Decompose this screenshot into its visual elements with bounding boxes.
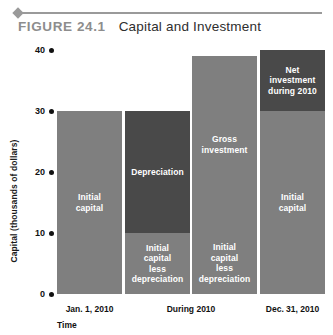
y-tick-dot-icon: [49, 109, 54, 114]
segment-label: Initialcapital: [277, 192, 309, 213]
bar-3-segment-2: Grossinvestment: [192, 56, 257, 233]
x-tick-label-3: Dec. 31, 2010: [260, 304, 325, 314]
bar-4[interactable]: InitialcapitalNetinvestmentduring 2010: [260, 50, 325, 294]
y-tick-label: 0: [40, 288, 45, 300]
y-tick-0: 0: [0, 288, 57, 300]
x-tick-label-2: During 2010: [125, 304, 257, 314]
y-tick-40: 40: [0, 44, 57, 56]
bar-3-segment-1: Initialcapitallessdepreciation: [192, 233, 257, 294]
x-axis-title: Time: [57, 320, 77, 330]
bar-1-segment-1: Initialcapital: [57, 111, 122, 294]
segment-label: Depreciation: [129, 167, 186, 178]
chart-plot-area: Capital (thousands of dollars) 010203040…: [0, 0, 333, 335]
y-axis-title: Capital (thousands of dollars): [9, 111, 19, 291]
bar-3[interactable]: InitialcapitallessdepreciationGrossinves…: [192, 56, 257, 294]
bar-4-segment-1: Initialcapital: [260, 111, 325, 294]
bar-1[interactable]: Initialcapital: [57, 111, 122, 294]
y-tick-dot-icon: [49, 48, 54, 53]
y-tick-30: 30: [0, 105, 57, 117]
y-tick-dot-icon: [49, 292, 54, 297]
bar-2-segment-1: Initialcapitallessdepreciation: [125, 233, 190, 294]
y-tick-10: 10: [0, 227, 57, 239]
segment-label: Grossinvestment: [200, 134, 250, 155]
segment-label: Initialcapitallessdepreciation: [197, 242, 253, 284]
bar-4-segment-2: Netinvestmentduring 2010: [260, 50, 325, 111]
y-tick-label: 10: [35, 227, 45, 239]
segment-label: Initialcapitallessdepreciation: [130, 243, 186, 285]
y-tick-dot-icon: [49, 231, 54, 236]
bar-2[interactable]: InitialcapitallessdepreciationDepreciati…: [125, 111, 190, 294]
y-tick-label: 20: [35, 166, 45, 178]
segment-label: Initialcapital: [74, 192, 106, 213]
bar-2-segment-2: Depreciation: [125, 111, 190, 233]
segment-label: Netinvestmentduring 2010: [266, 65, 319, 97]
y-tick-20: 20: [0, 166, 57, 178]
y-tick-label: 40: [35, 44, 45, 56]
y-tick-label: 30: [35, 105, 45, 117]
x-tick-label-1: Jan. 1, 2010: [57, 304, 122, 314]
y-tick-dot-icon: [49, 170, 54, 175]
